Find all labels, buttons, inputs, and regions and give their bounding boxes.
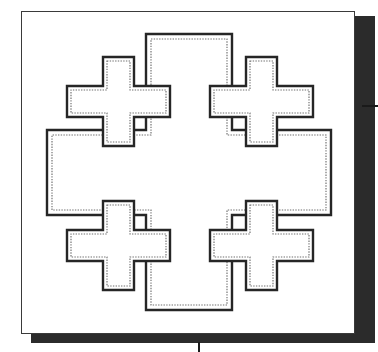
jerusalem-cross-emblem: [0, 0, 378, 352]
central-potent-cross-outline: [47, 34, 331, 310]
emblem-svg: [0, 0, 378, 352]
figure-canvas: [0, 0, 378, 352]
